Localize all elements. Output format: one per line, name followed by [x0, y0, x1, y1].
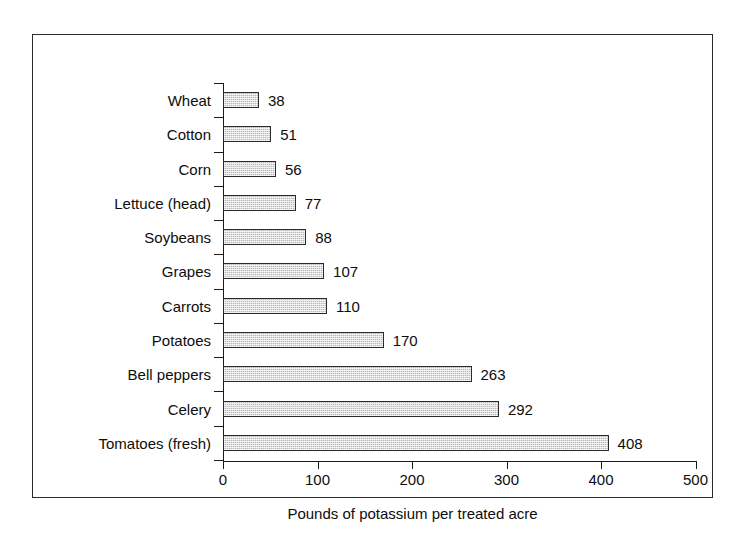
x-axis-tick [412, 461, 413, 469]
bar-value-label: 110 [336, 298, 360, 313]
y-axis-tick [214, 391, 223, 392]
x-axis-tick-label: 200 [399, 472, 424, 487]
category-label: Bell peppers [128, 367, 211, 382]
bar-row: Lettuce (head)77 [223, 186, 601, 220]
category-label: Cotton [167, 127, 211, 142]
x-axis-tick-label: 400 [588, 472, 613, 487]
bar-row: Celery292 [223, 391, 601, 425]
y-axis-tick [214, 83, 223, 84]
bar [223, 161, 276, 177]
bar [223, 263, 324, 279]
category-label: Lettuce (head) [114, 195, 211, 210]
bar-row: Grapes107 [223, 254, 601, 288]
y-axis-tick [214, 117, 223, 118]
x-axis-tick [318, 461, 319, 469]
bar-row: Tomatoes (fresh)408 [223, 426, 601, 460]
bar [223, 435, 609, 451]
plot-area: Wheat38Cotton51Corn56Lettuce (head)77Soy… [223, 83, 601, 460]
bar-row: Wheat38 [223, 83, 601, 117]
x-axis-tick [507, 461, 508, 469]
x-axis-tick [601, 461, 602, 469]
bar [223, 332, 384, 348]
bar [223, 229, 306, 245]
bar-value-label: 77 [305, 195, 322, 210]
category-label: Corn [178, 161, 211, 176]
y-axis-tick [214, 323, 223, 324]
y-axis-tick [214, 186, 223, 187]
x-axis-tick-label: 0 [219, 472, 227, 487]
x-axis-tick [696, 461, 697, 469]
y-axis-tick [214, 460, 223, 461]
category-label: Potatoes [152, 333, 211, 348]
y-axis-tick [214, 289, 223, 290]
bar [223, 195, 296, 211]
x-axis-tick-label: 100 [305, 472, 330, 487]
bar-row: Bell peppers263 [223, 357, 601, 391]
x-axis-line [223, 461, 696, 462]
x-axis-title: Pounds of potassium per treated acre [223, 505, 602, 522]
category-label: Wheat [168, 93, 211, 108]
bar [223, 92, 259, 108]
bar-value-label: 263 [481, 367, 506, 382]
bar [223, 298, 327, 314]
y-axis-tick [214, 357, 223, 358]
category-label: Soybeans [144, 230, 211, 245]
y-axis-tick [214, 254, 223, 255]
category-label: Tomatoes (fresh) [98, 435, 211, 450]
category-label: Celery [168, 401, 211, 416]
x-axis-tick-label: 500 [683, 472, 708, 487]
category-label: Carrots [162, 298, 211, 313]
bar-row: Soybeans88 [223, 220, 601, 254]
bar-row: Carrots110 [223, 289, 601, 323]
bar-value-label: 292 [508, 401, 533, 416]
y-axis-tick [214, 220, 223, 221]
bar-value-label: 408 [618, 435, 643, 450]
bar-row: Corn56 [223, 152, 601, 186]
bar [223, 126, 271, 142]
bar [223, 401, 499, 417]
bar-value-label: 38 [268, 93, 285, 108]
bar-value-label: 88 [315, 230, 332, 245]
x-axis-tick-label: 300 [494, 472, 519, 487]
x-axis-tick [223, 461, 224, 469]
bar-row: Potatoes170 [223, 323, 601, 357]
bar-row: Cotton51 [223, 117, 601, 151]
bar-value-label: 170 [393, 333, 418, 348]
bar-value-label: 56 [285, 161, 302, 176]
bar [223, 366, 472, 382]
category-label: Grapes [162, 264, 211, 279]
y-axis-tick [214, 152, 223, 153]
bar-value-label: 107 [333, 264, 358, 279]
y-axis-tick [214, 426, 223, 427]
chart-frame: Wheat38Cotton51Corn56Lettuce (head)77Soy… [32, 34, 713, 498]
bar-value-label: 51 [280, 127, 297, 142]
